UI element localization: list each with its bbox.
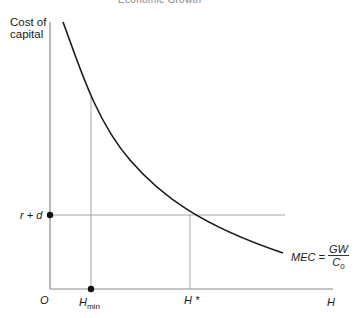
h-star-label: H * (184, 294, 199, 306)
x-axis-label: H (327, 296, 335, 308)
r-plus-d-dot (47, 212, 53, 218)
y-axis-label: Cost of capital (10, 16, 46, 40)
mec-formula-label: MEC = GW C0 (291, 243, 349, 273)
mec-curve (63, 22, 283, 253)
r-plus-d-label: r + d (20, 209, 42, 221)
origin-label: O (40, 294, 49, 306)
mec-fraction: GW C0 (328, 243, 349, 273)
h-min-dot (88, 286, 94, 292)
h-min-label: Hmin (79, 296, 100, 313)
